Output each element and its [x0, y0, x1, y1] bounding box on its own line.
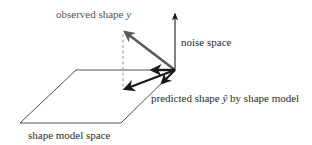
observed-shape-vector — [125, 32, 175, 70]
observed-shape-text: observed shape — [56, 8, 126, 20]
shape-space-diagram — [0, 0, 312, 145]
observed-shape-symbol: y — [126, 8, 131, 20]
predicted-shape-label: predicted shape ŷ by shape model — [151, 93, 299, 104]
noise-space-label: noise space — [181, 37, 231, 48]
observed-shape-label: observed shape y — [56, 9, 131, 20]
shape-model-space-label: shape model space — [28, 130, 110, 141]
predicted-shape-vector — [125, 70, 175, 89]
predicted-shape-suffix: by shape model — [227, 92, 299, 104]
predicted-shape-prefix: predicted shape — [151, 92, 222, 104]
